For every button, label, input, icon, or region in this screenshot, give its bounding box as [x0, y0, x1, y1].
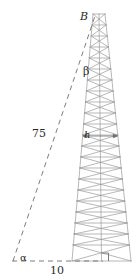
label-angle-alpha: α	[20, 253, 27, 263]
label-angle-beta: β	[83, 66, 89, 77]
label-apex-b: B	[80, 11, 88, 22]
label-base-length: 10	[50, 265, 64, 276]
figure-canvas	[0, 0, 136, 280]
label-height-h: h	[84, 130, 90, 140]
lattice-tower	[72, 14, 131, 261]
geometry-figure: B β h 75 α 10	[0, 0, 136, 280]
label-hypotenuse-length: 75	[32, 128, 46, 139]
tower-cross-bracing	[72, 14, 131, 261]
